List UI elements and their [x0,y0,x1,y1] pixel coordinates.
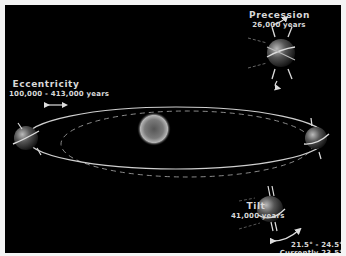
tilt-label: Tilt 41,000 years [231,201,281,221]
tilt-current: Currently 23.5° [267,249,341,253]
diagram-frame: Eccentricity 100,000 - 413,000 years Pre… [5,5,341,253]
eccentricity-period: 100,000 - 413,000 years [9,90,83,99]
sun-icon [137,112,171,146]
eccentricity-label: Eccentricity 100,000 - 413,000 years [9,79,83,99]
eccentricity-title: Eccentricity [9,79,83,90]
tilt-title: Tilt [231,201,281,212]
precession-period: 26,000 years [249,21,309,30]
tilt-period: 41,000 years [231,212,281,221]
solid-orbit [26,107,326,169]
orbit-scene [5,5,341,253]
precession-label: Precession 26,000 years [249,10,309,30]
precession-title: Precession [249,10,309,21]
rotation-arrow-bottom-icon [275,81,278,88]
dashed-orbit [61,111,313,177]
tilt-range-label: 21.5° - 24.5° Currently 23.5° [267,241,341,253]
tilt-range-arrow-icon [273,230,299,241]
tilt-range: 21.5° - 24.5° [267,241,341,249]
